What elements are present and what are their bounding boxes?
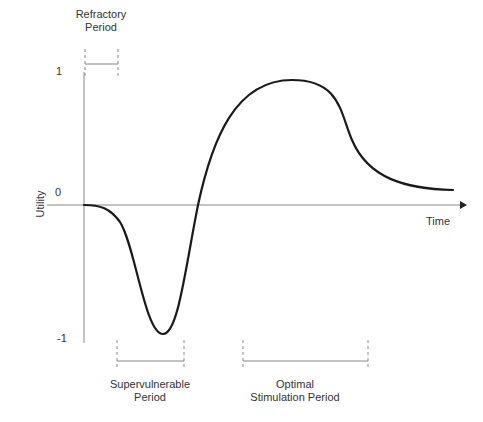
utility-curve	[84, 80, 453, 334]
y-axis-label: Utility	[34, 184, 46, 224]
supervulnerable-period-label: Supervulnerable Period	[100, 378, 200, 404]
y-tick-neg1: -1	[57, 332, 67, 344]
utility-diagram	[0, 0, 483, 422]
x-axis-arrow-icon	[460, 201, 467, 209]
y-tick-1: 1	[56, 65, 62, 77]
label-line: Refractory	[61, 8, 141, 21]
optimal-stimulation-period-bracket	[243, 340, 368, 370]
supervulnerable-period-bracket	[117, 340, 184, 370]
x-axis-label: Time	[426, 215, 450, 227]
optimal-stimulation-period-label: Optimal Stimulation Period	[240, 378, 350, 404]
label-line: Supervulnerable	[100, 378, 200, 391]
label-line: Stimulation Period	[240, 391, 350, 404]
refractory-period-bracket	[85, 49, 118, 78]
y-tick-0: 0	[55, 186, 61, 198]
label-line: Period	[61, 21, 141, 34]
label-line: Optimal	[240, 378, 350, 391]
refractory-period-label: Refractory Period	[61, 8, 141, 34]
label-line: Period	[100, 391, 200, 404]
